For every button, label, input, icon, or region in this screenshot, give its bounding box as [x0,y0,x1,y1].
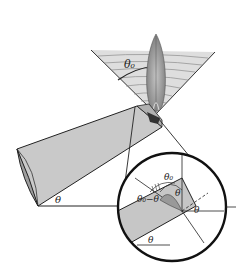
magnified-inset [100,150,236,261]
bar-tilt-label: θ [55,194,61,205]
zoom-line-right [158,118,190,157]
diagram: θ₀ θ [0,0,247,268]
inset-theta-top: θ [175,188,181,198]
inset-theta-right: θ [194,205,200,215]
inset-cone-label: θ₀ [164,172,173,182]
inset-theta-bottom: θ [148,235,154,245]
inset-diff-label: θ₀−θ [137,194,160,204]
diagram-svg: θ₀ θ [0,0,247,268]
emission-lobe [147,34,166,112]
cone-angle-label: θ₀ [124,58,136,71]
